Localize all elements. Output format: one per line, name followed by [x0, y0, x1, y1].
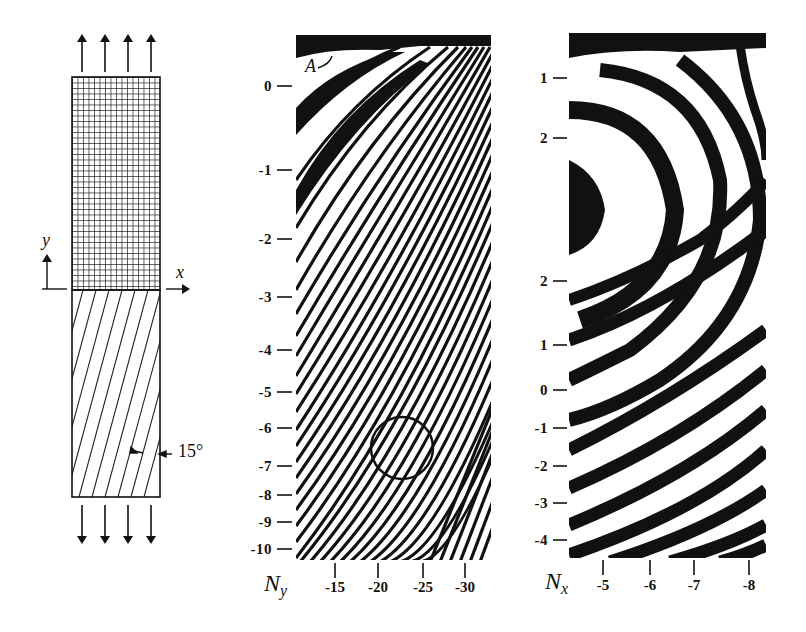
fringe-lines: [296, 47, 670, 562]
ny-y-tick: -6: [238, 421, 272, 436]
fiber-lines: [27, 290, 200, 497]
point-a-label: A: [305, 56, 316, 77]
nx-y-tick: -3: [514, 496, 548, 511]
specimen-drawing: [0, 0, 230, 632]
region-of-interest-circle: [371, 417, 433, 479]
ny-y-tick: -7: [238, 459, 272, 474]
moire-grating: [72, 77, 160, 290]
ny-x-ticks: [335, 563, 465, 578]
ny-x-tick: -25: [403, 580, 443, 595]
angle-annotation: [130, 447, 172, 457]
nx-y-tick: 1: [514, 338, 548, 353]
nx-x-tick: -7: [674, 578, 714, 593]
fringe-bands: [569, 33, 766, 562]
nx-x-tick: -6: [630, 578, 670, 593]
ny-y-tick: -10: [238, 542, 272, 557]
nx-x-tick: -5: [583, 578, 623, 593]
nx-x-ticks: [603, 560, 749, 575]
ny-y-tick: -8: [238, 488, 272, 503]
ny-x-tick: -30: [445, 580, 485, 595]
nx-y-tick: -1: [514, 421, 548, 436]
ny-axis-name: Ny: [264, 570, 287, 600]
ny-y-tick: -3: [238, 290, 272, 305]
ny-y-tick: -1: [238, 163, 272, 178]
x-axis-label: x: [176, 262, 184, 283]
point-a-pointer: [318, 56, 332, 68]
ny-x-tick: -15: [315, 580, 355, 595]
nx-y-tick: 0: [514, 383, 548, 398]
ny-x-tick: -20: [358, 580, 398, 595]
nx-y-tick: -2: [514, 459, 548, 474]
nx-y-tick: -4: [514, 533, 548, 548]
ny-y-tick: -2: [238, 232, 272, 247]
specimen-diagram: y x 15°: [0, 0, 230, 632]
ny-y-tick: 0: [238, 79, 272, 94]
y-axis-label: y: [42, 230, 50, 251]
nx-y-tick: 1: [514, 71, 548, 86]
tension-arrows-bottom: [82, 505, 151, 540]
nx-y-ticks: [553, 78, 567, 540]
nx-y-tick: 2: [514, 274, 548, 289]
ny-y-tick: -9: [238, 515, 272, 530]
tension-arrows-top: [82, 38, 151, 72]
ny-y-ticks: [277, 86, 292, 549]
nx-axis-name: Nx: [545, 568, 568, 598]
nx-x-tick: -8: [729, 578, 769, 593]
ny-y-tick: -4: [238, 343, 272, 358]
ny-y-tick: -5: [238, 385, 272, 400]
fiber-angle-label: 15°: [178, 441, 203, 462]
nx-y-tick: 2: [514, 131, 548, 146]
